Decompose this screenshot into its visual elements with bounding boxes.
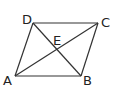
label-c: C	[101, 15, 110, 30]
label-e: E	[53, 33, 61, 48]
side-da	[15, 23, 33, 76]
diagonal-bd	[33, 23, 81, 76]
label-d: D	[22, 12, 32, 27]
parallelogram-diagram: D C E A B	[0, 0, 116, 91]
side-bc	[81, 23, 98, 76]
label-b: B	[83, 73, 92, 88]
label-a: A	[3, 73, 12, 88]
